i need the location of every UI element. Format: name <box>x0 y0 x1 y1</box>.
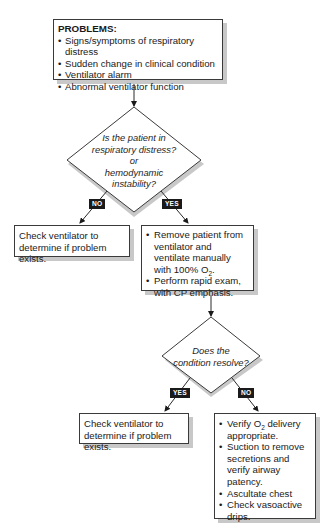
problems-box: PROBLEMS: Signs/symptoms of respiratory … <box>53 19 223 80</box>
decision2-line: condition resolve? <box>163 357 259 369</box>
problems-title: PROBLEMS: <box>58 23 218 35</box>
problem-item: Abnormal ventilator function <box>58 81 218 93</box>
box-text-line: determine if problem exists. <box>19 242 125 265</box>
action-item: Ascultate chest <box>219 488 311 500</box>
decision2-question: Does the condition resolve? <box>163 345 259 368</box>
action-item: Verify O2 delivery appropriate. <box>219 418 311 441</box>
decision1-line: hemodynamic <box>84 167 184 179</box>
check-ventilator-box-2: Check ventilator to determine if problem… <box>79 413 189 444</box>
box-text-line: determine if problem exists. <box>84 430 184 453</box>
action-item: Suction to remove secretions and verify … <box>219 441 311 487</box>
action-item: Check vasoactive drips. <box>219 499 311 522</box>
box-text-line: Check ventilator to <box>19 230 125 242</box>
decision2-yes-tag: YES <box>170 388 190 398</box>
followup-actions-box: Verify O2 delivery appropriate. Suction … <box>214 413 316 519</box>
check-ventilator-box-1: Check ventilator to determine if problem… <box>14 225 130 257</box>
action-item: Remove patient from ventilator and venti… <box>146 229 248 275</box>
decision1-line: Is the patient in <box>84 132 184 144</box>
decision1-line: or <box>84 155 184 167</box>
problem-item: Signs/symptoms of respiratory distress <box>58 35 218 58</box>
action-item: Perform rapid exam, with CP emphasis. <box>146 275 248 298</box>
immediate-actions-box: Remove patient from ventilator and venti… <box>141 225 254 291</box>
decision1-question: Is the patient in respiratory distress? … <box>84 132 184 190</box>
problems-list: Signs/symptoms of respiratory distress S… <box>58 35 218 93</box>
box-text-line: Check ventilator to <box>84 418 184 430</box>
decision2-line: Does the <box>163 345 259 357</box>
problem-item: Sudden change in clinical condition <box>58 58 218 70</box>
problem-item: Ventilator alarm <box>58 69 218 81</box>
decision1-no-tag: NO <box>89 199 105 209</box>
decision1-line: respiratory distress? <box>84 144 184 156</box>
decision1-yes-tag: YES <box>162 199 182 209</box>
decision1-line: instability? <box>84 178 184 190</box>
decision2-no-tag: NO <box>238 388 254 398</box>
